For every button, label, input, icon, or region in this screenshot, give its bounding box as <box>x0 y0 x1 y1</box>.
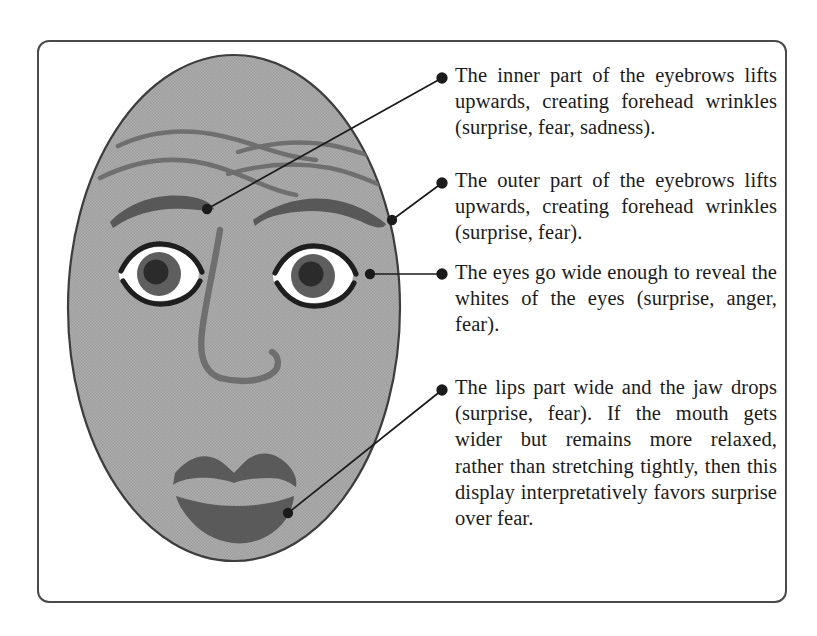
figure-page: The inner part of the eyebrows lifts upw… <box>0 0 817 636</box>
face-oval <box>68 55 400 561</box>
leader-line-outer-eyebrows <box>388 178 447 224</box>
annotation-wide-eyes: The eyes go wide enough to reveal the wh… <box>455 259 777 338</box>
annotation-inner-eyebrows: The inner part of the eyebrows lifts upw… <box>455 62 777 141</box>
right-eye <box>273 246 356 306</box>
annotation-parted-lips: The lips part wide and the jaw drops (su… <box>455 374 777 531</box>
left-eye <box>119 244 202 304</box>
annotation-outer-eyebrows: The outer part of the eyebrows lifts upw… <box>455 167 777 246</box>
